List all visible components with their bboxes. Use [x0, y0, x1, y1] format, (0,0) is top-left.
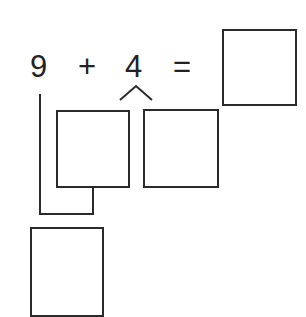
- split-box-1[interactable]: [56, 110, 130, 188]
- combined-box[interactable]: [30, 227, 104, 317]
- split-caret-icon: [120, 86, 152, 100]
- split-box-2[interactable]: [143, 109, 219, 188]
